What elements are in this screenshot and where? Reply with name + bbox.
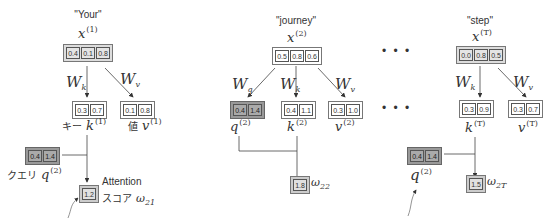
query-label: クエリ q(2) bbox=[7, 166, 62, 182]
value-vector: 0.3 1.0 bbox=[328, 101, 363, 119]
input-vector: 0.4 0.1 0.8 bbox=[63, 44, 113, 62]
vector-cell: 0.3 bbox=[75, 104, 89, 116]
vector-cell: 0.3 bbox=[462, 103, 476, 115]
score-cell: 1.2 bbox=[82, 188, 96, 200]
vector-cell: 0.3 bbox=[511, 103, 525, 115]
input-vector: 0.0 0.8 0.5 bbox=[456, 46, 506, 64]
value-weight-label: Wv bbox=[335, 75, 355, 94]
vector-cell: 0.4 bbox=[284, 104, 298, 116]
vector-cell: 0.1 bbox=[123, 104, 137, 116]
query-label: q(2) bbox=[230, 118, 251, 134]
value-weight-label: Wv bbox=[513, 73, 533, 92]
key-vector: 0.3 0.9 bbox=[459, 100, 494, 118]
key-weight-label: Wk bbox=[280, 75, 300, 94]
vector-cell: 0.7 bbox=[90, 104, 104, 116]
input-vector-label: x(2) bbox=[287, 29, 307, 45]
key-weight-label: Wk bbox=[455, 73, 475, 92]
attention-score: 1.5 bbox=[466, 175, 486, 193]
key-weight-label: Wk bbox=[66, 73, 86, 92]
attention-score: 1.8 bbox=[290, 176, 310, 194]
value-vector: 0.3 0.7 bbox=[508, 100, 543, 118]
key-vector: 0.4 1.1 bbox=[281, 101, 316, 119]
vector-cell: 0.8 bbox=[290, 50, 304, 62]
input-vector: 0.5 0.8 0.6 bbox=[272, 47, 322, 65]
vector-cell: 1.0 bbox=[346, 104, 360, 116]
query-vector: 0.4 1.4 bbox=[407, 147, 442, 165]
value-weight-label: Wv bbox=[120, 70, 140, 89]
value-label: 値 v(1) bbox=[128, 117, 162, 133]
vector-cell: 0.8 bbox=[96, 47, 110, 59]
attention-score: 1.2 bbox=[79, 185, 99, 203]
vector-cell: 0.7 bbox=[526, 103, 540, 115]
score-cell: 1.5 bbox=[469, 178, 483, 190]
query-weight-label: Wq bbox=[232, 75, 253, 94]
token-label: "Your" bbox=[60, 9, 116, 20]
vector-cell: 1.4 bbox=[248, 104, 262, 116]
vector-cell: 0.4 bbox=[66, 47, 80, 59]
vector-cell: 0.4 bbox=[233, 104, 247, 116]
attention-score-caption: Attention bbox=[102, 176, 141, 187]
ellipsis: • • • bbox=[382, 101, 411, 115]
attention-score-label: ω2T bbox=[487, 175, 506, 190]
key-label: k(2) bbox=[287, 118, 307, 134]
input-vector-label: x(T) bbox=[472, 28, 492, 44]
vector-cell: 0.1 bbox=[81, 47, 95, 59]
value-label: v(2) bbox=[335, 118, 355, 134]
token-label: "step" bbox=[455, 15, 505, 26]
vector-cell: 0.4 bbox=[28, 150, 42, 162]
key-label: キー k(1) bbox=[62, 117, 106, 133]
vector-cell: 0.5 bbox=[489, 49, 503, 61]
ellipsis: • • • bbox=[382, 44, 411, 58]
value-label: v(T) bbox=[518, 119, 538, 135]
attention-score-caption-2: スコア ω21 bbox=[102, 190, 155, 207]
vector-cell: 0.4 bbox=[410, 150, 424, 162]
query-label: q(2) bbox=[410, 166, 432, 184]
token-label: "journey" bbox=[266, 15, 326, 26]
vector-cell: 0.0 bbox=[459, 49, 473, 61]
query-vector: 0.4 1.4 bbox=[230, 101, 265, 119]
vector-cell: 1.4 bbox=[43, 150, 57, 162]
vector-cell: 0.8 bbox=[474, 49, 488, 61]
vector-cell: 1.4 bbox=[425, 150, 439, 162]
vector-cell: 0.8 bbox=[138, 104, 152, 116]
vector-cell: 0.3 bbox=[331, 104, 345, 116]
input-vector-label: x(1) bbox=[78, 25, 98, 41]
vector-cell: 0.9 bbox=[477, 103, 491, 115]
query-vector: 0.4 1.4 bbox=[25, 147, 60, 165]
attention-score-label: ω22 bbox=[311, 176, 330, 191]
vector-cell: 1.1 bbox=[299, 104, 313, 116]
vector-cell: 0.6 bbox=[305, 50, 319, 62]
vector-cell: 0.5 bbox=[275, 50, 289, 62]
key-label: k(T) bbox=[465, 119, 485, 135]
score-cell: 1.8 bbox=[293, 179, 307, 191]
